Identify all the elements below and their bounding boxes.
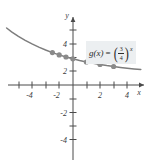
close-paren: ) [125,48,129,60]
data-point [63,54,68,59]
y-axis-label: y [64,11,69,20]
fraction-three-fourths: 3 4 [118,46,124,61]
y-axis-arrow [71,17,76,22]
x-tick-label-2: 2 [98,91,102,100]
function-name: g(x) [89,49,104,58]
open-paren: ( [113,48,117,60]
x-tick-label-neg2: -2 [53,91,60,100]
y-tick-label-2: 2 [63,67,67,76]
y-tick-label-neg2: -2 [60,109,67,118]
equals-sign: = [106,49,111,58]
exponent: x [130,46,133,52]
data-point [70,56,75,61]
exponential-graph-figure: -4 -2 2 4 4 2 -2 -4 x y g(x) = ( 3 4 ) x [0,0,155,167]
plot-canvas: -4 -2 2 4 4 2 -2 -4 x y [0,0,155,167]
fraction-denominator: 4 [120,55,123,61]
x-tick-label-neg4: -4 [26,91,33,100]
y-tick-label-neg4: -4 [60,136,67,145]
equation-label: g(x) = ( 3 4 ) x [86,41,136,64]
x-axis-arrow [139,83,144,88]
data-point [111,64,116,69]
fraction-numerator: 3 [120,46,123,52]
x-axis-label: x [136,88,141,97]
y-tick-label-4: 4 [63,40,67,49]
x-tick-label-4: 4 [125,91,129,100]
data-point [57,52,62,57]
data-point [50,50,55,55]
equation-expression: g(x) = ( 3 4 ) x [89,46,133,61]
